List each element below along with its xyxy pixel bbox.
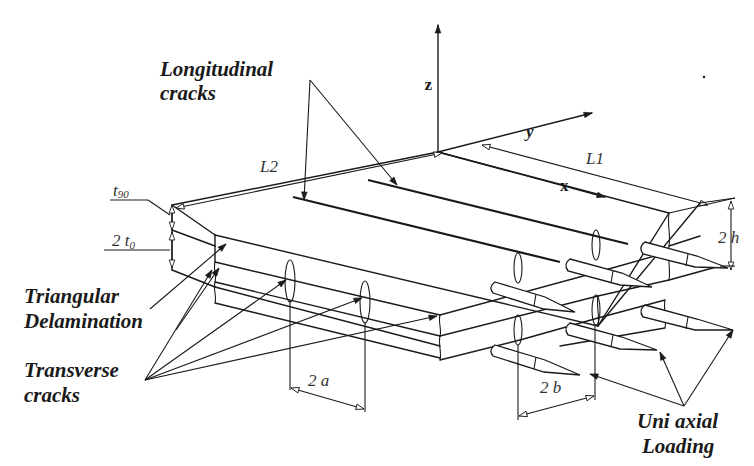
l1-label: L1 xyxy=(585,149,604,168)
dimensions: L2 L1 2 h 2 a 2 b t90 2 t0 xyxy=(104,145,739,420)
transverse-crack-5 xyxy=(592,230,600,260)
longitudinal-cracks xyxy=(293,180,628,262)
l2-dimension-line xyxy=(176,153,442,208)
2t0-label: 2 t0 xyxy=(112,231,135,251)
y-axis-label: y xyxy=(524,122,534,141)
transverse-crack-6 xyxy=(592,295,600,325)
laminate-plate xyxy=(172,152,720,360)
front-block-vertical xyxy=(439,315,440,360)
longitudinal-crack-1 xyxy=(293,197,560,262)
y-axis xyxy=(438,113,592,152)
left-back-top-ply-line xyxy=(172,230,215,246)
load-arrow-2 xyxy=(566,259,652,287)
load-arrow-4 xyxy=(491,345,580,375)
2b-dimension-line xyxy=(519,396,594,416)
2a-label: 2 a xyxy=(308,371,329,390)
longitudinal-leader-1 xyxy=(304,80,310,200)
top-ply-top-edge xyxy=(215,235,598,326)
transverse-leader-1 xyxy=(145,270,212,380)
bottom-ply-lower-line xyxy=(215,287,440,346)
longitudinal-crack-2 xyxy=(368,180,628,244)
delamination-leader-2 xyxy=(176,268,219,330)
stray-dot xyxy=(703,76,705,78)
delamination-leader-1 xyxy=(150,244,226,309)
2h-label: 2 h xyxy=(718,228,739,247)
2b-label: 2 b xyxy=(540,378,561,397)
load-arrow-5 xyxy=(566,323,657,350)
l1-ext-line xyxy=(669,198,735,213)
x-axis xyxy=(438,152,605,197)
coordinate-axes: z y x xyxy=(424,25,605,197)
l2-label: L2 xyxy=(259,157,278,176)
2a-dimension-line xyxy=(291,388,364,409)
load-arrow-3 xyxy=(641,242,728,268)
transverse-leader-3 xyxy=(145,298,362,380)
transverse-cracks-label: Transverse cracks xyxy=(24,358,124,407)
z-axis-label: z xyxy=(424,75,432,94)
top-face-left-edge xyxy=(172,205,215,235)
loading-leader-2 xyxy=(660,352,684,406)
loading-leader-1 xyxy=(590,374,684,406)
x-axis-label: x xyxy=(560,176,569,195)
t90-leader-diag xyxy=(148,200,170,215)
uniaxial-loading-label: Uni axial Loading xyxy=(637,409,723,458)
transverse-crack-3 xyxy=(514,253,522,283)
t90-label: t90 xyxy=(113,181,129,200)
longitudinal-cracks-label: Longitudinal cracks xyxy=(159,57,278,105)
transverse-cracks xyxy=(285,230,600,345)
step-right-2 xyxy=(669,236,700,246)
callouts: Longitudinal cracks Triangular Delaminat… xyxy=(23,57,733,458)
mid-ply-upper-line xyxy=(215,282,440,336)
transverse-leader-4 xyxy=(145,316,437,380)
triangular-delamination-label: Triangular Delamination xyxy=(23,284,143,333)
loading-leader-3 xyxy=(684,330,733,406)
laminate-diagram: z y x L2 L1 2 h 2 a 2 b t90 2 t0 xyxy=(0,0,754,466)
transverse-crack-2 xyxy=(360,281,370,323)
load-arrow-6 xyxy=(641,305,733,330)
